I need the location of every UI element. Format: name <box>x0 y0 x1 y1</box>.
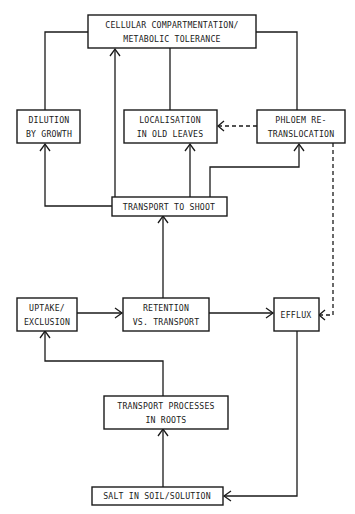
node-cellular-line1: CELLULAR COMPARTMENTATION/ <box>105 20 238 30</box>
node-localisation-line2: IN OLD LEAVES <box>137 129 204 139</box>
edge-cellular-dilution <box>45 32 88 110</box>
node-efflux-line1: EFFLUX <box>281 310 312 320</box>
flow-diagram: CELLULAR COMPARTMENTATION/ METABOLIC TOL… <box>0 0 355 514</box>
node-transport-roots-line2: IN ROOTS <box>145 415 186 425</box>
edge-roots-uptake <box>45 331 163 396</box>
node-phloem-line1: PHLOEM RE- <box>275 115 326 125</box>
node-transport-shoot-line1: TRANSPORT TO SHOOT <box>123 202 215 212</box>
node-retention-line1: RETENTION <box>143 303 189 313</box>
node-cellular: CELLULAR COMPARTMENTATION/ METABOLIC TOL… <box>88 15 256 48</box>
node-cellular-line2: METABOLIC TOLERANCE <box>123 34 220 44</box>
node-transport-shoot: TRANSPORT TO SHOOT <box>112 197 227 216</box>
node-dilution-line1: DILUTION <box>28 115 69 125</box>
edge-efflux-salt <box>224 331 297 496</box>
node-transport-roots: TRANSPORT PROCESSES IN ROOTS <box>104 396 228 429</box>
node-uptake-line1: UPTAKE/ <box>29 303 65 313</box>
node-retention: RETENTION VS. TRANSPORT <box>123 298 209 331</box>
edge-cellular-phloem <box>256 32 297 110</box>
node-dilution-line2: BY GROWTH <box>26 129 72 139</box>
connectors <box>40 32 333 501</box>
node-salt: SALT IN SOIL/SOLUTION <box>92 487 223 505</box>
node-localisation-line1: LOCALISATION <box>139 115 201 125</box>
node-uptake: UPTAKE/ EXCLUSION <box>17 298 77 331</box>
node-dilution: DILUTION BY GROWTH <box>17 110 80 143</box>
node-efflux: EFFLUX <box>274 298 319 331</box>
node-salt-line1: SALT IN SOIL/SOLUTION <box>103 491 211 501</box>
edge-shoot-dilution <box>45 144 112 206</box>
edge-shoot-phloem <box>210 144 299 197</box>
edge-phloem-efflux <box>319 143 333 315</box>
node-phloem-line2: TRANSLOCATION <box>268 129 335 139</box>
node-localisation: LOCALISATION IN OLD LEAVES <box>124 110 217 143</box>
node-retention-line2: VS. TRANSPORT <box>133 317 200 327</box>
node-phloem: PHLOEM RE- TRANSLOCATION <box>257 110 345 143</box>
node-transport-roots-line1: TRANSPORT PROCESSES <box>117 401 214 411</box>
node-uptake-line2: EXCLUSION <box>24 317 70 327</box>
